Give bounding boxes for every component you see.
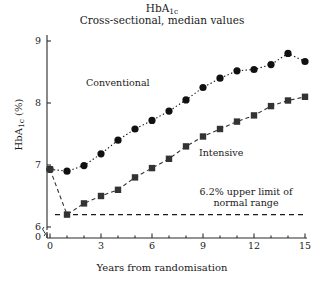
x-tick-label: 3	[91, 241, 111, 251]
data-point-conventional-9	[199, 84, 206, 91]
data-point-conventional-5	[131, 125, 138, 132]
data-point-intensive-15	[302, 94, 308, 100]
data-point-conventional-10	[216, 75, 223, 82]
data-point-intensive-0	[47, 166, 53, 172]
figure-caption-clipped	[4, 274, 320, 281]
data-point-conventional-14	[284, 50, 291, 57]
data-point-conventional-12	[250, 66, 257, 73]
data-point-intensive-8	[183, 143, 189, 149]
x-tick-label: 9	[193, 241, 213, 251]
series-label-conventional: Conventional	[86, 77, 150, 88]
data-point-intensive-13	[268, 103, 274, 109]
data-point-conventional-15	[301, 58, 308, 65]
data-point-conventional-3	[97, 150, 104, 157]
data-point-conventional-2	[80, 162, 87, 169]
reference-line-annotation-line1: 6.2% upper limit of	[200, 186, 293, 197]
data-point-intensive-3	[98, 193, 104, 199]
axis-break-icon	[43, 227, 46, 236]
x-tick-label: 0	[40, 241, 60, 251]
data-point-intensive-14	[285, 97, 291, 103]
y-tick-label: 7	[23, 160, 41, 170]
y-tick-label: 9	[23, 36, 41, 46]
y-axis-break-label: 0	[23, 232, 41, 242]
series-label-intensive: Intensive	[199, 147, 243, 158]
reference-line-annotation-line2: normal range	[213, 197, 278, 208]
data-point-conventional-6	[148, 117, 155, 124]
data-point-intensive-2	[81, 200, 87, 206]
data-point-conventional-4	[114, 137, 121, 144]
data-point-conventional-11	[233, 67, 240, 74]
hba1c-chart-figure: HbA1c Cross-sectional, median values HbA…	[0, 0, 324, 282]
data-point-conventional-13	[267, 61, 274, 68]
x-tick-label: 12	[244, 241, 264, 251]
data-point-intensive-10	[217, 126, 223, 132]
data-point-intensive-5	[132, 174, 138, 180]
data-point-conventional-1	[63, 168, 70, 175]
data-point-intensive-9	[200, 133, 206, 139]
y-tick-label: 8	[23, 98, 41, 108]
data-point-intensive-12	[251, 112, 257, 118]
data-point-intensive-7	[166, 156, 172, 162]
data-point-conventional-7	[165, 108, 172, 115]
x-tick-label: 15	[295, 241, 315, 251]
data-point-intensive-6	[149, 165, 155, 171]
x-tick-label: 6	[142, 241, 162, 251]
data-point-intensive-11	[234, 118, 240, 124]
data-point-intensive-4	[115, 187, 121, 193]
data-point-conventional-8	[182, 96, 189, 103]
data-point-intensive-1	[64, 211, 70, 217]
series-line-conventional	[50, 53, 305, 171]
reference-line-annotation: 6.2% upper limit of normal range	[186, 186, 306, 208]
